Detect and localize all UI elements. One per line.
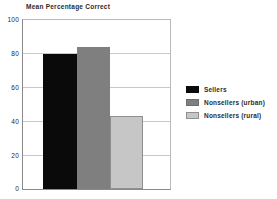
- legend-label-sellers: Sellers: [204, 86, 227, 93]
- y-tick-label-60: 60: [11, 84, 19, 91]
- plot-area: [22, 19, 171, 190]
- legend-item-sellers: Sellers: [186, 83, 276, 95]
- y-tick-label-80: 80: [11, 50, 19, 57]
- legend-item-nonsellers-rural: Nonsellers (rural): [186, 109, 276, 121]
- y-tick-label-100: 100: [8, 16, 19, 23]
- legend-label-nonsellers-urban: Nonsellers (urban): [204, 99, 265, 106]
- y-axis: 100 80 60 40 20 0: [0, 19, 19, 190]
- bar-sellers: [43, 54, 77, 189]
- legend-label-nonsellers-rural: Nonsellers (rural): [204, 112, 261, 119]
- legend: Sellers Nonsellers (urban) Nonsellers (r…: [186, 83, 276, 122]
- legend-swatch-icon-nonsellers-urban: [186, 99, 199, 106]
- legend-swatch-icon-sellers: [186, 86, 199, 93]
- y-tick-label-20: 20: [11, 152, 19, 159]
- y-tick-label-0: 0: [15, 185, 19, 192]
- bar-chart-figure: Mean Percentage Correct 100 80 60 40 20 …: [0, 0, 277, 199]
- legend-swatch-icon-nonsellers-rural: [186, 112, 199, 119]
- bar-nonsellers-urban: [77, 47, 110, 189]
- bar-nonsellers-rural: [110, 116, 143, 190]
- legend-item-nonsellers-urban: Nonsellers (urban): [186, 96, 276, 108]
- chart-title: Mean Percentage Correct: [26, 3, 110, 10]
- y-tick-label-40: 40: [11, 118, 19, 125]
